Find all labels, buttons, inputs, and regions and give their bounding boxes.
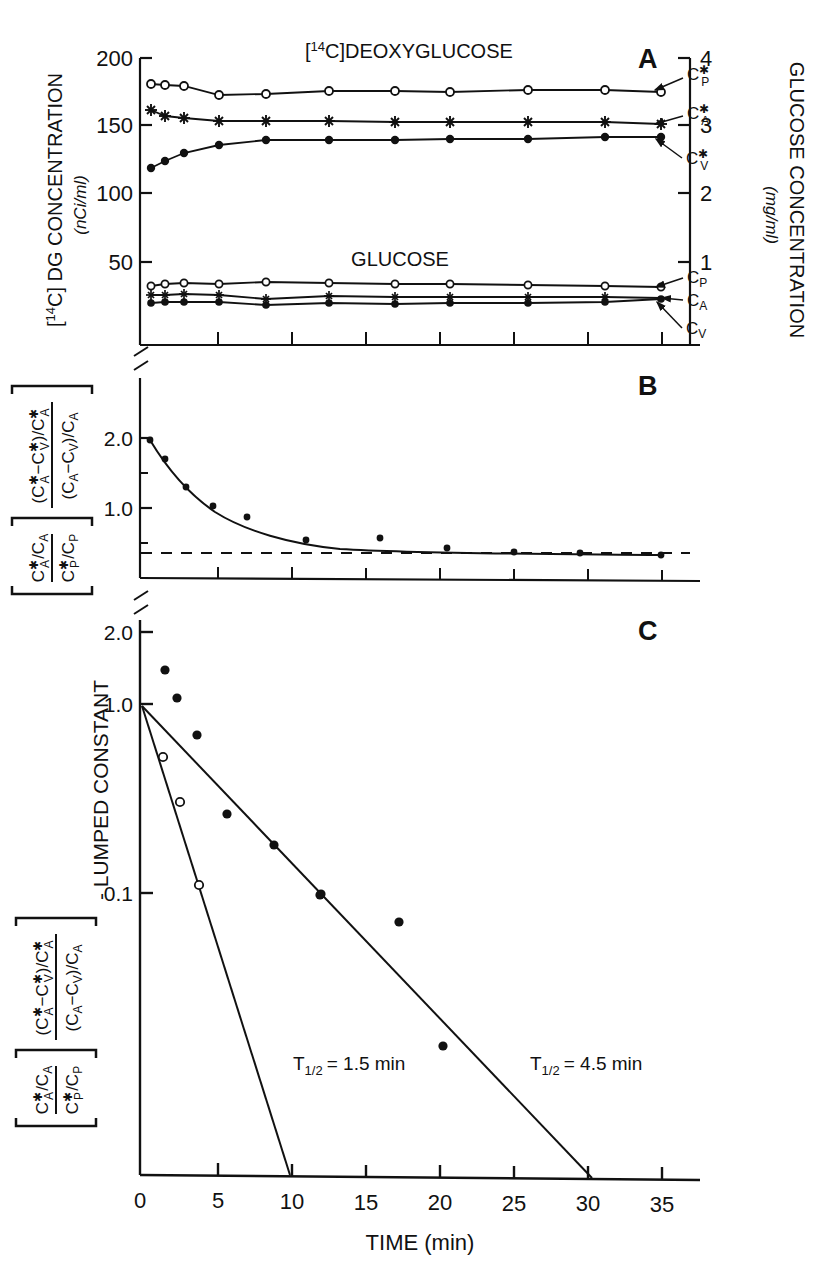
panel-b-ytick-1: 1.0 [104, 497, 133, 520]
svg-text:C✱A/CA: C✱A/CA [31, 1066, 56, 1114]
panel-b-y-ticks [140, 438, 152, 543]
label-glu-cv: CV [686, 319, 706, 341]
markers-dg-ca [145, 104, 667, 130]
panel-c-letter: C [638, 616, 658, 646]
arrow-dg-cp [655, 78, 683, 90]
panel-b-letter: B [638, 371, 658, 401]
panel-a-ytick-50: 50 [109, 250, 133, 275]
xtick-30: 30 [576, 1191, 600, 1216]
annotation-t-half-slow: T1/2= 4.5 min [530, 1053, 642, 1078]
panel-a-ylabel-left: [14C] DG CONCENTRATION [43, 73, 66, 327]
curve-glu-cv [151, 299, 661, 305]
panel-b-ylabel-group: C✱A/CA C✱P/CP (C✱A−C✱V)/C✱A (CA−CV)/CA [12, 386, 92, 594]
curve-dg-ca [151, 110, 661, 124]
panel-b-ylabel-formula: C✱A/CA C✱P/CP (C✱A−C✱V)/C✱A (CA−CV)/CA [12, 386, 92, 594]
panel-a-glucose-title: GLUCOSE [351, 248, 449, 270]
figure-container: 200 150 100 50 4 3 2 1 A [14C]DEOXYG [0, 0, 833, 1274]
xtick-15: 15 [354, 1190, 378, 1215]
curve-glu-cp [151, 282, 661, 287]
panel-a-ylabel-left-group: [14C] DG CONCENTRATION [43, 73, 66, 327]
xtick-0: 0 [134, 1188, 146, 1213]
arrow-dg-cv [656, 139, 682, 158]
svg-text:C✱P/CP: C✱P/CP [57, 534, 82, 582]
xtick-5: 5 [212, 1188, 224, 1213]
panel-c-y-ticks [140, 632, 153, 893]
arrow-glu-cp [656, 278, 683, 287]
svg-text:(CA−CV)/CA: (CA−CV)/CA [59, 413, 81, 500]
svg-text:C✱P/CP: C✱P/CP [61, 1066, 86, 1114]
x-axis-label: TIME (min) [366, 1230, 475, 1255]
axis-break-b-c [134, 591, 148, 614]
panel-c-fit-slow [142, 706, 592, 1178]
panel-c-ylabel-formula-group: C✱A/CA C✱P/CP (C✱A−C✱V)/C✱A (CA−CV)/CA [16, 918, 96, 1126]
panel-b-fit-curve [150, 440, 661, 555]
panel-c-x-tick-labels: 0 5 10 15 20 25 30 35 [134, 1188, 674, 1217]
markers-dg-cv [147, 133, 665, 172]
scientific-figure: 200 150 100 50 4 3 2 1 A [14C]DEOXYG [0, 0, 833, 1274]
arrow-glu-ca [662, 298, 683, 300]
panel-b: 2.0 1.0 B [104, 371, 700, 581]
panel-c-ylabel-formula: C✱A/CA C✱P/CP (C✱A−C✱V)/C✱A (CA−CV)/CA [16, 918, 96, 1126]
panel-a-letter: A [638, 44, 658, 74]
panel-a-ytick-100: 100 [96, 181, 133, 206]
panel-a-ylabel-left-units-group: (nCi/ml) [71, 175, 90, 235]
panel-a-ylabel-right-units: (mg/ml) [762, 186, 781, 244]
panel-b-x-axis [140, 578, 700, 581]
panel-c-points-open [159, 753, 203, 889]
arrow-glu-cv [657, 302, 682, 328]
xtick-25: 25 [502, 1191, 526, 1216]
panel-a-ylabel-right: GLUCOSE CONCENTRATION [786, 62, 808, 338]
panel-a-ytick-150: 150 [96, 113, 133, 138]
curve-dg-cp [151, 84, 661, 95]
panel-b-ytick-2: 2.0 [104, 427, 133, 450]
panel-a-x-ticks [218, 332, 662, 345]
svg-text:(C✱A−C✱V)/C✱A: (C✱A−C✱V)/C✱A [31, 941, 56, 1036]
panel-c-ylabel-main: - LUMPED CONSTANT [89, 680, 112, 900]
annotation-t-half-fast: T1/2= 1.5 min [293, 1053, 405, 1078]
curve-dg-cv [151, 137, 661, 168]
panel-c-ytick-2: 2.0 [104, 621, 133, 644]
panel-c-ylabel-main-group: - LUMPED CONSTANT [89, 680, 112, 900]
panel-a-rytick-1: 1 [700, 250, 712, 275]
svg-text:(C✱A−C✱V)/C✱A: (C✱A−C✱V)/C✱A [27, 409, 52, 504]
panel-a-ytick-200: 200 [96, 46, 133, 71]
xtick-35: 35 [650, 1192, 674, 1217]
panel-a-ylabel-right-units-group: (mg/ml) [762, 186, 781, 244]
axis-break-a-b [134, 347, 148, 370]
label-glu-ca: CA [687, 291, 707, 313]
panel-c: 2.0 1.0 0.1 C 0 5 10 15 20 25 30 35 TIME… [104, 616, 700, 1255]
panel-b-data-points [147, 437, 665, 559]
curve-glu-ca [151, 294, 661, 299]
svg-text:(CA−CV)/CA: (CA−CV)/CA [63, 945, 85, 1032]
panel-a-ylabel-right-group: GLUCOSE CONCENTRATION [786, 62, 808, 338]
panel-a-dg-title: [14C]DEOXYGLUCOSE [305, 39, 513, 62]
panel-c-fit-fast [142, 706, 290, 1175]
panel-a-rytick-2: 2 [700, 181, 712, 206]
panel-a: 200 150 100 50 4 3 2 1 A [14C]DEOXYG [96, 39, 712, 370]
xtick-10: 10 [280, 1189, 304, 1214]
arrow-dg-ca [655, 116, 683, 124]
svg-text:C✱A/CA: C✱A/CA [27, 534, 52, 582]
xtick-20: 20 [428, 1190, 452, 1215]
panel-c-points-filled [160, 665, 447, 1050]
panel-a-ylabel-left-units: (nCi/ml) [71, 175, 90, 235]
panel-c-x-axis [140, 1175, 700, 1180]
